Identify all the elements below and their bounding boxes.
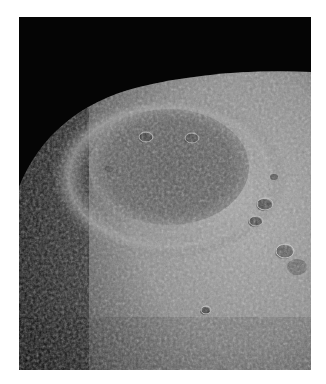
moon-photo: Close-up view of the Moon's cratered sur… xyxy=(19,17,311,370)
moon-surface-graphic xyxy=(19,17,311,370)
